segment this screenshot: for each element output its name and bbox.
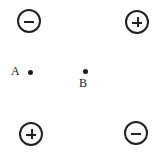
plus-circle-icon (127, 12, 147, 32)
plus-bar-vertical (137, 17, 139, 27)
charge-top-left[interactable] (17, 9, 41, 33)
plus-circle-icon (21, 124, 41, 144)
point-dot-a[interactable] (28, 70, 33, 75)
point-label-b: B (79, 77, 87, 89)
charge-bottom-right[interactable] (124, 121, 148, 145)
minus-circle-icon (126, 123, 146, 143)
minus-circle-icon (19, 11, 39, 31)
point-label-a: A (11, 65, 20, 77)
charge-bottom-left[interactable] (19, 122, 43, 146)
minus-bar (24, 21, 34, 23)
charge-diagram: A B (0, 0, 165, 158)
minus-bar (131, 133, 141, 135)
plus-bar-vertical (31, 129, 33, 139)
charge-top-right[interactable] (125, 10, 149, 34)
point-dot-b[interactable] (83, 69, 88, 74)
